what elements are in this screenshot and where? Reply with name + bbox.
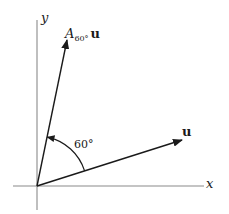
y-axis-label: y [41,11,48,24]
rotation-diagram: y x u A60°u 60° [0,0,229,214]
rotation-matrix-symbol: A [65,26,74,41]
vector-u-label: u [182,125,191,138]
vector-u-arrow [37,140,182,186]
diagram-graphics [0,0,229,214]
rotated-vector-symbol: u [91,26,100,41]
vector-a60u-arrow [37,40,67,186]
rotation-angle-subscript: 60° [74,34,88,43]
x-axis-label: x [206,177,213,190]
rotation-angle-label: 60° [74,139,94,150]
vector-a60u-label: A60°u [65,27,100,40]
